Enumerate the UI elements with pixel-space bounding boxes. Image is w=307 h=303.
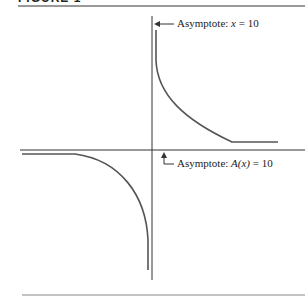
hyperbola-diagram: [0, 0, 307, 303]
label-equation: = 10: [250, 157, 273, 169]
label-variable: A(x): [231, 157, 250, 169]
lower-branch-curve: [22, 154, 148, 270]
horizontal-asymptote-label: Asymptote: A(x) = 10: [177, 157, 273, 169]
vertical-arrowhead-icon: [154, 21, 160, 27]
label-prefix: Asymptote:: [177, 17, 231, 29]
label-prefix: Asymptote:: [177, 157, 231, 169]
vertical-asymptote-label: Asymptote: x = 10: [177, 17, 259, 29]
horizontal-arrowhead-icon: [161, 152, 167, 158]
upper-branch-curve: [156, 30, 278, 142]
label-equation: = 10: [236, 17, 259, 29]
